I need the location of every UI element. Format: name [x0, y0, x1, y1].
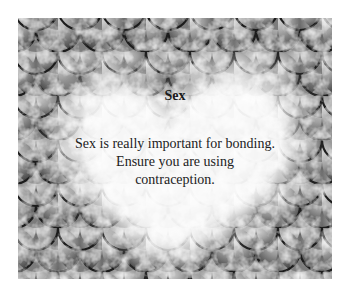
- content-card: Sex Sex is really important for bonding.…: [18, 18, 332, 279]
- card-title: Sex: [18, 88, 332, 104]
- card-body-text: Sex is really important for bonding. Ens…: [75, 135, 275, 189]
